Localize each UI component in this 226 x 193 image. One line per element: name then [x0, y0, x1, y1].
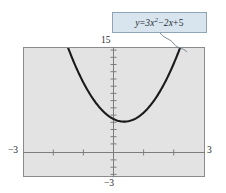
equation-constant: 5	[179, 19, 184, 29]
parabola-curve	[61, 27, 188, 122]
callout-leader-line	[160, 33, 187, 52]
y-min-label: −3	[104, 179, 114, 189]
equation-callout-box: y=3x2−2x+5	[112, 12, 207, 33]
x-max-label: 3	[207, 146, 212, 156]
y-max-label: 15	[101, 36, 111, 46]
graph-figure: y=3x2−2x+5 15 −3 3 −3	[0, 0, 226, 193]
x-min-label: −3	[8, 146, 18, 156]
equation-label: y=3x2−2x+5	[135, 16, 183, 28]
